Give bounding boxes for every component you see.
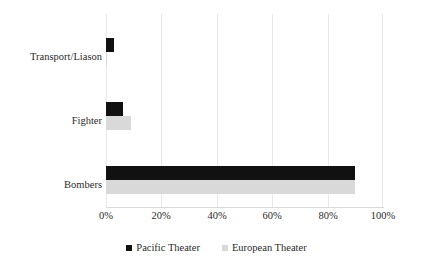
bar-group-bombers xyxy=(106,152,383,202)
chart-legend: Pacific Theater European Theater xyxy=(0,243,433,254)
x-tick-0: 0% xyxy=(99,211,113,222)
bar-chart: Transport/Liason Fighter Bombers 0% 20% … xyxy=(0,0,433,280)
legend-label-european-theater: European Theater xyxy=(232,243,307,254)
x-tick-20: 20% xyxy=(151,211,170,222)
y-axis-labels: Transport/Liason Fighter Bombers xyxy=(0,14,102,207)
legend-item-european-theater[interactable]: European Theater xyxy=(222,243,307,254)
bar-european-fighter xyxy=(106,116,131,130)
x-axis-line xyxy=(106,207,384,208)
bar-pacific-bombers xyxy=(106,166,355,180)
y-axis-label-fighter: Fighter xyxy=(2,116,102,127)
bar-group-fighter xyxy=(106,88,383,138)
bar-group-transport-liason xyxy=(106,24,383,74)
bar-pacific-fighter xyxy=(106,102,123,116)
x-axis-labels: 0% 20% 40% 60% 80% 100% xyxy=(0,211,433,227)
x-tick-60: 60% xyxy=(262,211,281,222)
legend-item-pacific-theater[interactable]: Pacific Theater xyxy=(126,243,200,254)
x-tick-80: 80% xyxy=(318,211,337,222)
legend-swatch-icon xyxy=(222,245,228,251)
legend-swatch-icon xyxy=(126,245,132,251)
bar-pacific-transport-liason xyxy=(106,38,114,52)
bar-european-transport-liason xyxy=(106,52,107,66)
bar-european-bombers xyxy=(106,180,355,194)
plot-area xyxy=(106,14,383,207)
y-axis-label-transport-liason: Transport/Liason xyxy=(2,52,102,63)
y-axis-label-bombers: Bombers xyxy=(2,180,102,191)
legend-label-pacific-theater: Pacific Theater xyxy=(136,243,200,254)
x-tick-40: 40% xyxy=(207,211,226,222)
x-tick-100: 100% xyxy=(371,211,396,222)
